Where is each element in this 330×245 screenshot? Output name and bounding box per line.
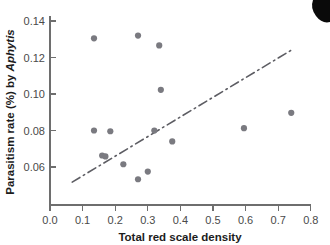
data-point [169,138,175,144]
x-axis-title: Total red scale density [118,231,242,243]
x-axis-ticks [50,205,311,211]
data-point [288,110,294,116]
y-tick-label: 0.08 [24,125,45,137]
data-point [91,127,97,133]
data-point [91,35,97,41]
scatter-plot-figure: 0.14 0.12 0.10 0.08 0.06 0.0 0.1 0.2 0.3… [0,0,330,245]
data-point [107,128,113,134]
data-point [135,33,141,39]
x-axis-tick-labels: 0.0 0.1 0.2 0.3 0.4 0.5 0.6 0.7 0.8 [42,214,318,226]
x-tick-label: 0.2 [108,214,123,226]
y-axis-title: Parasitism rate (%) by Aphytis [4,29,16,195]
data-point [120,161,126,167]
data-point [102,153,108,159]
y-axis-title-italic: Aphytis [4,29,16,72]
x-tick-label: 0.6 [238,214,253,226]
y-axis-ticks [50,21,56,167]
y-tick-label: 0.10 [24,88,45,100]
y-axis-title-plain: Parasitism rate (%) by [4,71,16,194]
data-point [158,87,164,93]
plot-canvas: 0.14 0.12 0.10 0.08 0.06 0.0 0.1 0.2 0.3… [0,0,330,245]
x-tick-label: 0.5 [205,214,220,226]
x-tick-label: 0.1 [75,214,90,226]
x-tick-label: 0.4 [173,214,188,226]
x-tick-label: 0.3 [140,214,155,226]
data-point [145,168,151,174]
x-tick-label: 0.7 [271,214,286,226]
y-tick-label: 0.14 [24,15,45,27]
y-tick-label: 0.06 [24,161,45,173]
trend-line [72,49,293,182]
scan-artifact-blob [312,0,330,22]
data-point [151,127,157,133]
data-point [241,125,247,131]
y-axis-tick-labels: 0.14 0.12 0.10 0.08 0.06 [24,15,45,173]
x-tick-label: 0.0 [42,214,57,226]
data-point [156,42,162,48]
y-tick-label: 0.12 [24,52,45,64]
x-tick-label: 0.8 [303,214,318,226]
data-point [135,176,141,182]
data-points-layer [91,33,294,183]
